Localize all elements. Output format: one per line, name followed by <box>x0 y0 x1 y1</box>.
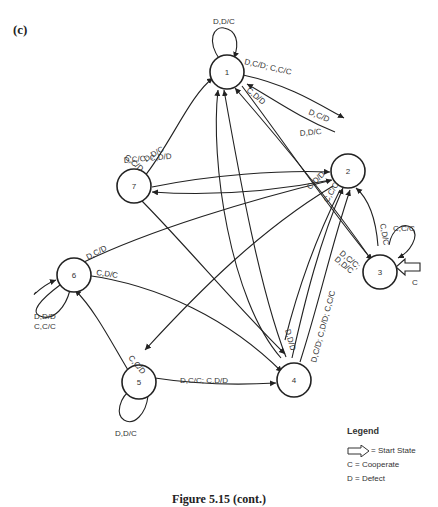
svg-text:5: 5 <box>137 378 142 387</box>
state-node-6: 6 <box>57 258 91 292</box>
legend-defect: D = Defect <box>347 472 416 486</box>
edge-5-6 <box>75 290 128 370</box>
edge-label-5-5: D,D/C <box>115 429 137 438</box>
start-input-label: C <box>412 278 418 287</box>
legend-start-state: = Start State <box>347 444 416 458</box>
edge-label-1-2: D,C/D; C,C/C <box>244 57 293 77</box>
start-state-arrow-icon <box>347 445 371 457</box>
edge-7-4 <box>142 201 285 354</box>
edge-label-3-2: C,D/C <box>378 223 391 246</box>
state-node-4: 4 <box>277 363 311 397</box>
edge-6-4 <box>85 275 282 372</box>
edge-2-1 <box>247 84 335 132</box>
figure-caption: Figure 5.15 (cont.) <box>0 492 438 507</box>
svg-text:4: 4 <box>292 376 297 385</box>
state-node-3: 3 <box>363 255 397 289</box>
legend: Legend = Start State C = Cooperate D = D… <box>347 424 416 486</box>
edge-label-1-1: D,D/C <box>213 17 235 26</box>
edge-label-6-2: D,C/D <box>85 243 109 261</box>
svg-text:2: 2 <box>346 167 351 176</box>
svg-text:7: 7 <box>132 182 137 191</box>
state-node-1: 1 <box>210 55 244 89</box>
edge-label-2-7: D,D/C <box>299 127 322 138</box>
edge-label-6-6a: D,D/D <box>34 312 56 321</box>
svg-text:1: 1 <box>225 68 230 77</box>
edge-2-5 <box>145 186 333 350</box>
svg-text:3: 3 <box>378 268 383 277</box>
edge-label-6-4: C,D/C <box>96 268 119 280</box>
edge-3-2 <box>356 188 378 246</box>
legend-cooperate: C = Cooperate <box>347 458 416 472</box>
edge-label-6-6b: C,C/C <box>34 322 56 331</box>
legend-title: Legend <box>347 424 416 438</box>
edge-label-3-3: C,C/C <box>393 224 415 233</box>
edge-label-5-4: D,C/C; C,D/D <box>180 376 228 385</box>
state-node-7: 7 <box>117 169 151 203</box>
edge-label-4-2: D,C/D; C,D/D; C,C/C <box>309 289 337 363</box>
start-state-arrow-icon <box>396 259 420 275</box>
edge-6-6b <box>34 280 56 294</box>
svg-text:6: 6 <box>72 271 77 280</box>
